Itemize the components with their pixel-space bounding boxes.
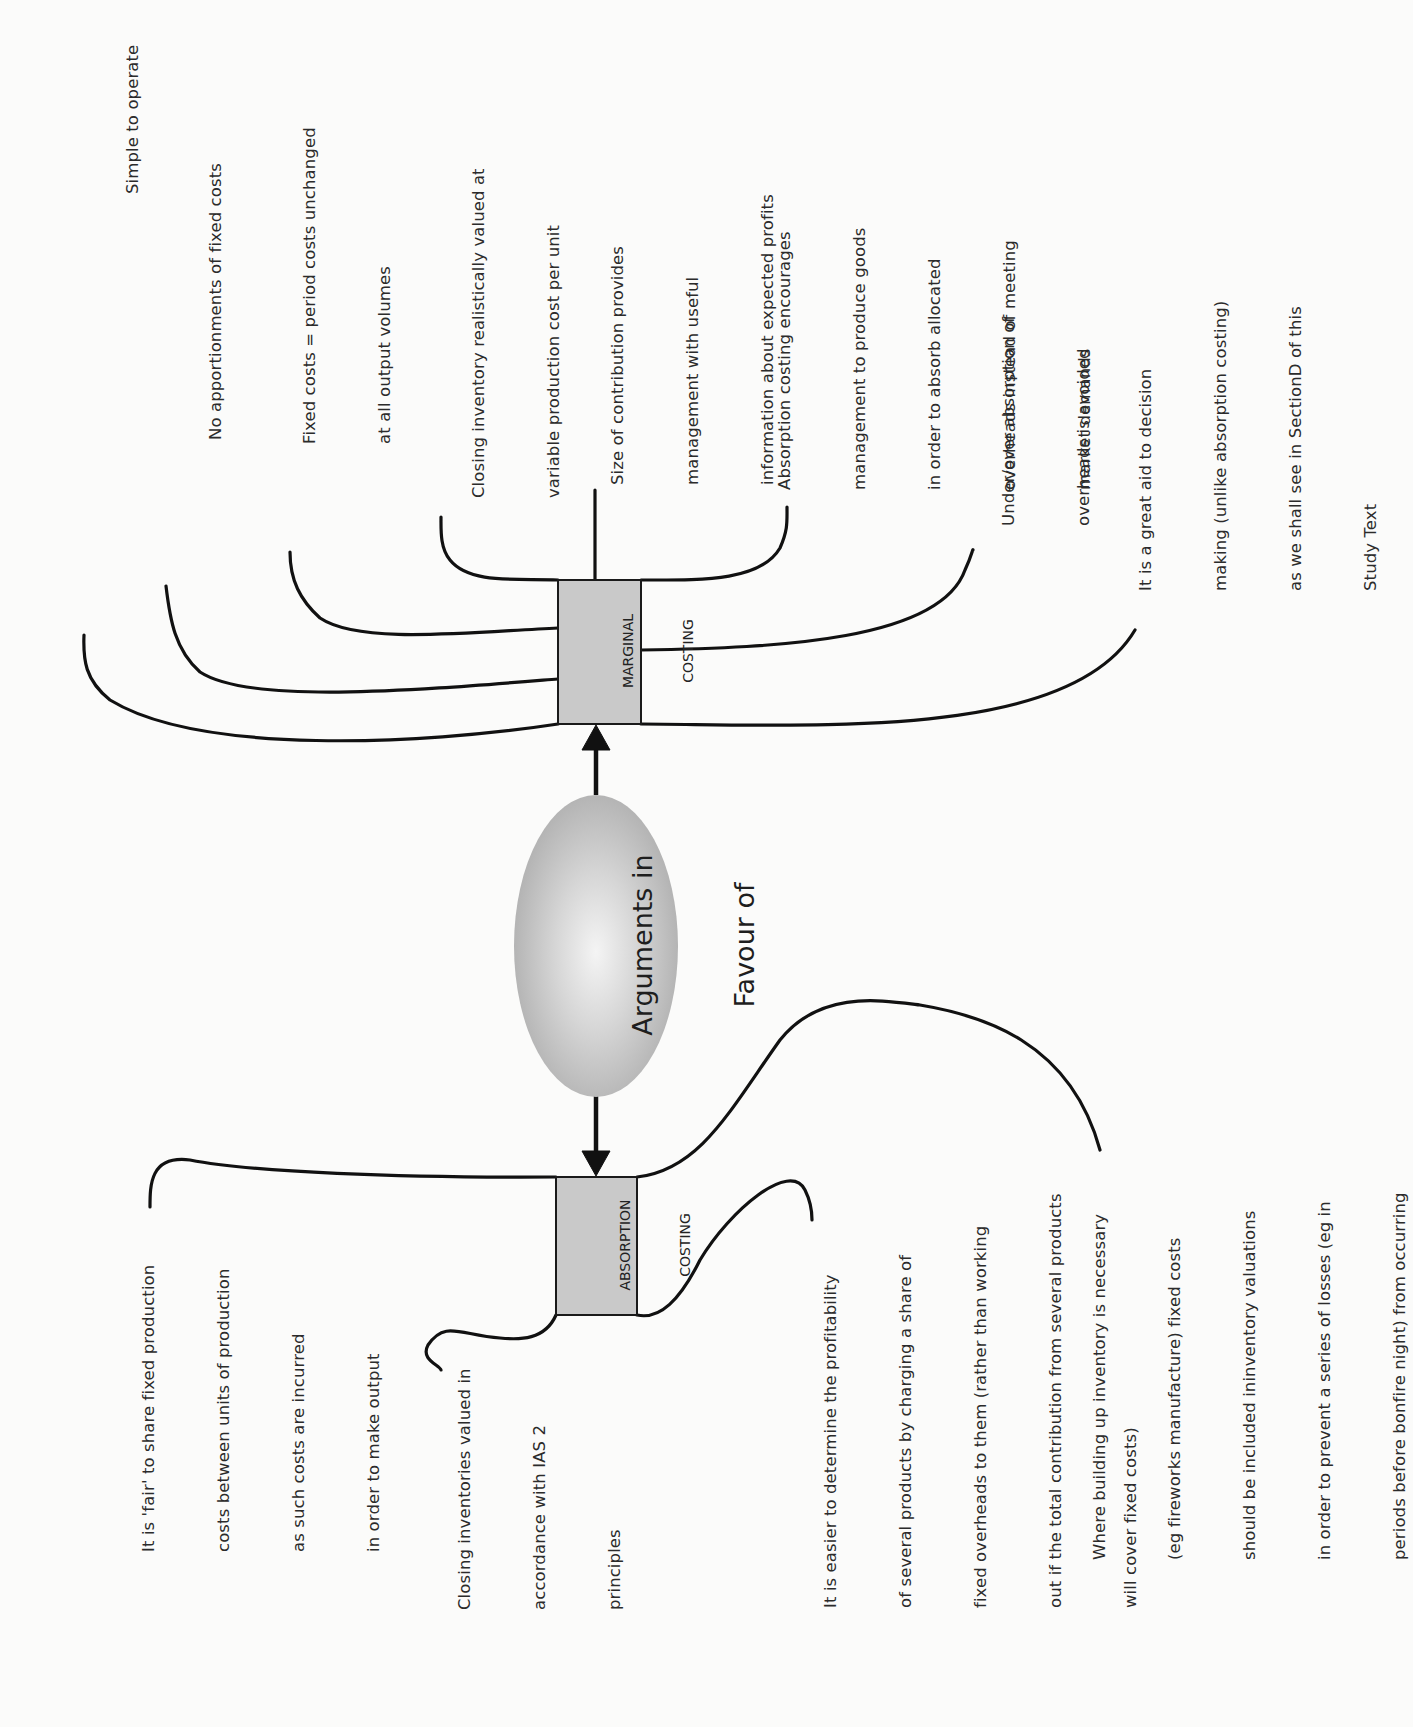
center-label-line-2: Favour of xyxy=(728,820,762,1070)
text-line: should be included ininventory valuation… xyxy=(1237,1192,1262,1560)
marginal-argument-decision-making: It is a great aid to decision making (un… xyxy=(1083,301,1413,591)
text-line: Closing inventory realistically valued a… xyxy=(466,168,491,498)
text-line: in order to absorb allocated xyxy=(922,228,947,490)
marginal-costing-label: MARGINAL COSTING xyxy=(578,596,738,706)
text-line: accordance with IAS 2 xyxy=(527,1368,552,1610)
marginal-label-line-2: COSTING xyxy=(678,596,698,706)
branch-fixed-costs xyxy=(290,552,558,635)
absorption-label-line-1: ABSORPTION xyxy=(615,1186,635,1304)
absorption-argument-building-inventory: Where building up inventory is necessary… xyxy=(1037,1192,1413,1560)
text-line: Size of contribution provides xyxy=(605,194,630,485)
arrowhead-down xyxy=(582,1151,610,1176)
absorption-argument-fair-share: It is 'fair' to share fixed production c… xyxy=(86,1265,436,1552)
text-line: It is a great aid to decision xyxy=(1133,301,1158,591)
absorption-costing-label: ABSORPTION COSTING xyxy=(575,1186,735,1304)
text-line: Where building up inventory is necessary xyxy=(1087,1192,1112,1560)
text-line: Absorption costing encourages xyxy=(772,228,797,490)
text-line: fixed overheads to them (rather than wor… xyxy=(968,1193,993,1608)
text-line: in order to prevent a series of losses (… xyxy=(1312,1192,1337,1560)
text-line: (eg fireworks manufacture) fixed costs xyxy=(1162,1192,1187,1560)
text-line: Fixed costs = period costs unchanged xyxy=(297,127,322,444)
branch-simple-to-operate xyxy=(84,635,558,741)
text-line: Under/over absorption of xyxy=(996,317,1021,526)
text-line: of several products by charging a share … xyxy=(893,1193,918,1608)
center-node-label: Arguments in Favour of xyxy=(558,820,830,1070)
center-label-line-1: Arguments in xyxy=(626,820,660,1070)
text-line: making (unlike absorption costing) xyxy=(1208,301,1233,591)
branch-no-apportionments xyxy=(166,586,558,692)
text-line: Closing inventories valued in xyxy=(452,1368,477,1610)
text-line: management with useful xyxy=(680,194,705,485)
text-line: at all output volumes xyxy=(372,127,397,444)
text-line: It is 'fair' to share fixed production xyxy=(136,1265,161,1552)
marginal-label-line-1: MARGINAL xyxy=(618,596,638,706)
text-line: costs between units of production xyxy=(211,1265,236,1552)
text-line: as such costs are incurred xyxy=(286,1265,311,1552)
branch-fair-share xyxy=(150,1159,556,1207)
text-line: management to produce goods xyxy=(847,228,872,490)
absorption-argument-ias2: Closing inventories valued in accordance… xyxy=(402,1368,677,1610)
absorption-label-line-2: COSTING xyxy=(675,1186,695,1304)
text-line: in order to make output xyxy=(361,1265,386,1552)
text-line: No apportionments of fixed costs xyxy=(203,163,228,440)
text-line: Simple to operate xyxy=(120,45,145,194)
branch-closing-inventory xyxy=(441,517,558,580)
text-line: periods before bonfire night) from occur… xyxy=(1387,1192,1412,1560)
text-line: Study Text xyxy=(1358,301,1383,591)
arrowhead-up xyxy=(582,725,610,750)
text-line: It is easier to determine the profitabil… xyxy=(818,1193,843,1608)
branch-closing-inventories-ias2 xyxy=(426,1315,556,1370)
branch-absorption-encourages xyxy=(641,507,787,580)
text-line: as we shall see in SectionD of this xyxy=(1283,301,1308,591)
text-line: principles xyxy=(602,1368,627,1610)
